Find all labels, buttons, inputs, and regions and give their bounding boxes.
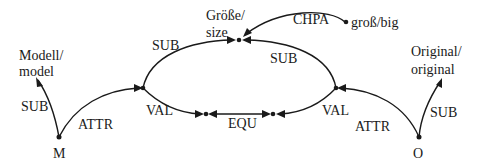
label-size-line2: size	[206, 25, 228, 40]
label-original-line1: Original/	[411, 44, 462, 59]
edge-label-chpa: CHPA	[293, 12, 330, 27]
node-big	[344, 20, 349, 25]
arrowhead-right-junction-attr	[337, 84, 346, 92]
edge-label-m-attr: ATTR	[78, 117, 114, 132]
label-o: O	[413, 146, 423, 161]
node-equ-left	[204, 112, 209, 117]
edge-label-m-sub: SUB	[21, 99, 48, 114]
edge-label-right-val: VAL	[322, 103, 349, 118]
arrowhead-equ-right-val	[276, 110, 285, 118]
label-m: M	[53, 146, 66, 161]
arrowhead-equ-right	[262, 110, 271, 118]
edge-label-o-attr: ATTR	[355, 119, 391, 134]
node-right-junction	[334, 86, 339, 91]
arrowhead-size-right	[242, 36, 251, 44]
node-left-junction	[141, 86, 146, 91]
label-size-line1: Größe/	[206, 8, 245, 23]
arrowhead-size-chpa	[243, 28, 252, 37]
edge-label-left-val: VAL	[146, 103, 173, 118]
label-big: groß/big	[351, 15, 398, 30]
node-equ-right	[271, 112, 276, 117]
arrowhead-equ-left-val	[195, 110, 204, 118]
node-m	[57, 135, 62, 140]
edge-label-right-sub: SUB	[270, 51, 297, 66]
node-size	[237, 38, 242, 43]
edge-label-equ: EQU	[228, 116, 257, 131]
node-o	[417, 135, 422, 140]
arrowhead-size-left	[227, 36, 236, 44]
label-model-line1: Modell/	[19, 48, 63, 63]
label-original-line2: original	[411, 62, 455, 77]
edge-label-left-sub: SUB	[152, 38, 179, 53]
semantic-network-diagram: M O Modell/ model Original/ original Grö…	[0, 0, 481, 163]
edge-label-o-sub: SUB	[430, 105, 457, 120]
arrowhead-equ-left	[208, 110, 217, 118]
label-model-line2: model	[19, 64, 54, 79]
